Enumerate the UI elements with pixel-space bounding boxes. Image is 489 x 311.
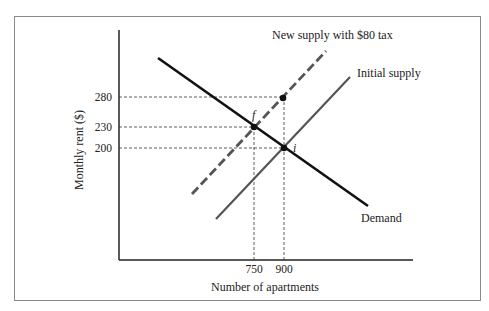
initial-supply-label: Initial supply xyxy=(357,66,421,80)
x-axis-label: Number of apartments xyxy=(211,280,319,294)
new-supply-label: New supply with $80 tax xyxy=(272,28,393,42)
demand-label: Demand xyxy=(361,211,402,225)
ytick-280: 280 xyxy=(95,91,113,103)
demand-line xyxy=(158,58,368,206)
point-f xyxy=(251,124,258,131)
ytick-230: 230 xyxy=(95,121,113,133)
supply-demand-chart: New supply with $80 tax Initial supply D… xyxy=(0,0,489,311)
point-f-label: f xyxy=(252,108,257,122)
point-i-label: i xyxy=(293,141,296,155)
point-tax-price xyxy=(280,95,287,102)
xtick-900: 900 xyxy=(275,263,293,275)
xtick-750: 750 xyxy=(245,263,263,275)
y-axis-label: Monthly rent ($) xyxy=(72,110,86,190)
ytick-200: 200 xyxy=(95,142,113,154)
point-i xyxy=(281,145,288,152)
